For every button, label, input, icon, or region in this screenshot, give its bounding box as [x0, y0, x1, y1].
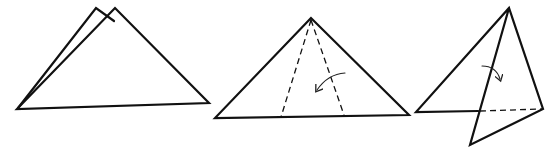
- step-1-folded-triangle: [17, 8, 209, 109]
- step-3-left-edge: [416, 8, 543, 145]
- diagram-canvas: [0, 0, 557, 153]
- origami-diagram: [0, 0, 557, 153]
- step-3-flap-folded: [416, 8, 543, 145]
- step-3-hidden-base: [480, 109, 542, 111]
- step-2-triangle-with-folds: [215, 18, 409, 118]
- step-2-fold-arrow-icon: [317, 73, 345, 90]
- step-1-front-layer: [17, 8, 209, 109]
- step-2-outline: [215, 18, 409, 118]
